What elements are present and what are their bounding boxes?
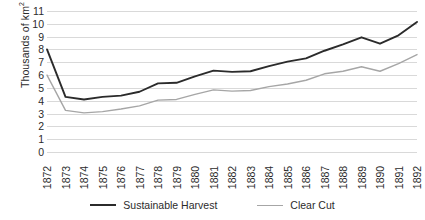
x-axis-tick-label: 1888 <box>338 159 349 197</box>
x-axis-tick-label: 1883 <box>245 159 256 197</box>
x-axis-tick-labels: 1872187318741875187618771878187918801881… <box>47 154 417 192</box>
x-axis-tick-label: 1881 <box>208 159 219 197</box>
y-axis-tick-label: 7 <box>22 57 44 67</box>
x-axis-tick-label: 1887 <box>319 159 330 197</box>
x-axis-tick-label: 1877 <box>134 159 145 197</box>
x-axis-tick-label: 1891 <box>393 159 404 197</box>
x-axis-tick-label: 1890 <box>375 159 386 197</box>
series-lines <box>47 11 417 152</box>
y-axis-tick-label: 1 <box>22 134 44 144</box>
legend-item[interactable]: Clear Cut <box>257 199 334 211</box>
x-axis-tick-label: 1885 <box>282 159 293 197</box>
y-axis-tick-label: 3 <box>22 109 44 119</box>
plot-area <box>47 11 417 152</box>
x-axis-tick-label: 1875 <box>97 159 108 197</box>
y-axis-tick-labels: 01234567891011 <box>22 0 44 160</box>
y-axis-tick-label: 8 <box>22 44 44 54</box>
legend-line-icon <box>257 205 283 206</box>
x-axis-tick-label: 1879 <box>171 159 182 197</box>
y-axis-tick-label: 5 <box>22 83 44 93</box>
legend-label: Sustainable Harvest <box>123 199 217 211</box>
x-axis-tick-label: 1882 <box>227 159 238 197</box>
chart-legend: Sustainable HarvestClear Cut <box>0 196 425 214</box>
y-axis-tick-label: 11 <box>22 6 44 16</box>
x-axis-tick-label: 1872 <box>42 159 53 197</box>
y-axis-tick-label: 6 <box>22 70 44 80</box>
x-axis-tick-label: 1876 <box>116 159 127 197</box>
y-axis-tick-label: 0 <box>22 147 44 157</box>
series-line <box>47 22 417 100</box>
x-axis-tick-label: 1884 <box>264 159 275 197</box>
y-axis-tick-label: 4 <box>22 96 44 106</box>
legend-item[interactable]: Sustainable Harvest <box>90 199 217 211</box>
legend-line-icon <box>90 204 116 206</box>
y-axis-tick-label: 2 <box>22 121 44 131</box>
x-axis-tick-label: 1892 <box>412 159 423 197</box>
gridline <box>47 152 417 153</box>
y-axis-tick-label: 9 <box>22 32 44 42</box>
x-axis-tick-label: 1873 <box>60 159 71 197</box>
line-chart: Thousands of km2 01234567891011 18721873… <box>0 0 425 220</box>
x-axis-tick-label: 1889 <box>356 159 367 197</box>
x-axis-tick-label: 1886 <box>301 159 312 197</box>
x-axis-tick-label: 1874 <box>79 159 90 197</box>
legend-label: Clear Cut <box>290 199 334 211</box>
y-axis-tick-label: 10 <box>22 19 44 29</box>
x-axis-tick-label: 1878 <box>153 159 164 197</box>
series-line <box>47 55 417 113</box>
x-axis-tick-label: 1880 <box>190 159 201 197</box>
